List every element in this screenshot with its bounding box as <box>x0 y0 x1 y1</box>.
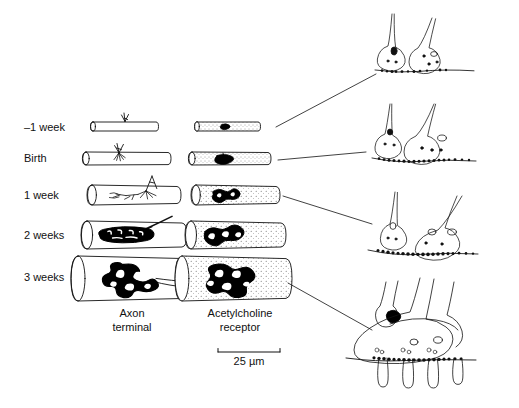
achr-fiber-1week <box>191 185 280 205</box>
achr-fiber-2weeks <box>185 221 286 249</box>
synapse-panel-embryonic <box>375 14 474 74</box>
synapse-panel-birth <box>372 104 476 164</box>
column-header-axon-terminal: Axon terminal <box>92 307 172 335</box>
column-header-axon-line2: terminal <box>92 321 172 335</box>
row-label-minus-1-week: –1 week <box>24 121 65 133</box>
column-header-achr-line2: receptor <box>185 321 295 335</box>
connector-line-1 <box>276 74 376 127</box>
axon-fiber-1week <box>87 176 181 205</box>
axon-fiber-3weeks <box>71 256 192 301</box>
column-header-achr-line1: Acetylcholine <box>185 307 295 321</box>
synapse-panel-mature <box>346 278 476 388</box>
row-label-birth: Birth <box>24 152 47 164</box>
axon-fiber-birth <box>82 144 171 166</box>
junctional-folds <box>378 358 463 388</box>
axon-fiber-minus1week <box>91 113 159 131</box>
column-header-acetylcholine-receptor: Acetylcholine receptor <box>185 307 295 335</box>
row-label-1-week: 1 week <box>24 189 59 201</box>
figure-root: –1 week Birth 1 week 2 weeks 3 weeks Axo… <box>0 0 519 408</box>
scale-bar-label: 25 µm <box>204 355 294 367</box>
connector-line-4 <box>288 283 372 330</box>
row-label-3-weeks: 3 weeks <box>24 271 64 283</box>
connector-line-2 <box>278 152 366 160</box>
figure-canvas <box>0 0 519 408</box>
scale-bar-icon <box>218 349 280 353</box>
connector-line-3 <box>283 196 372 224</box>
achr-fiber-birth <box>188 152 271 165</box>
axon-fiber-2weeks <box>81 216 187 249</box>
synapse-panel-postnatal <box>368 192 478 260</box>
row-label-2-weeks: 2 weeks <box>24 229 64 241</box>
column-header-axon-line1: Axon <box>92 307 172 321</box>
achr-fiber-minus1week <box>195 122 261 131</box>
achr-fiber-3weeks <box>175 256 292 301</box>
